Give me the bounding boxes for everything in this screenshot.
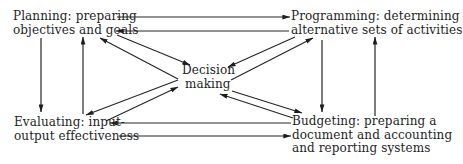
planning-line-1: Planning: preparing — [13, 10, 138, 24]
programming-line-1: Programming: determining — [291, 10, 463, 24]
evaluating-line-2: output effectiveness — [14, 130, 139, 144]
node-programming: Programming: determining alternative set… — [291, 10, 463, 37]
budgeting-line-3: and reporting systems — [292, 142, 452, 156]
node-planning: Planning: preparing objectives and goals — [13, 10, 138, 37]
decision-line-1: Decision — [182, 64, 235, 78]
edge-budgeting-to-decision — [220, 94, 293, 118]
node-evaluating: Evaluating: input- output effectiveness — [14, 116, 139, 143]
budgeting-line-2: document and accounting — [292, 129, 452, 143]
decision-line-2: making — [182, 78, 235, 92]
node-budgeting: Budgeting: preparing a document and acco… — [292, 115, 452, 156]
edge-decision-to-evaluating — [86, 80, 178, 115]
budgeting-line-1: Budgeting: preparing a — [292, 115, 452, 129]
planning-line-2: objectives and goals — [13, 24, 138, 38]
edge-planning-to-decision — [117, 35, 190, 65]
edge-decision-to-programming — [231, 38, 313, 80]
programming-line-2: alternative sets of activities — [291, 24, 463, 38]
evaluating-line-1: Evaluating: input- — [14, 116, 139, 130]
node-decision-making: Decision making — [182, 64, 235, 91]
